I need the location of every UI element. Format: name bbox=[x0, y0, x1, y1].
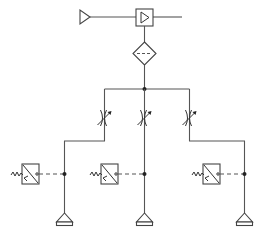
pneumatic-diagram bbox=[0, 0, 261, 236]
filter-icon bbox=[133, 42, 156, 65]
pressure-source-icon bbox=[80, 10, 90, 24]
branch-left bbox=[65, 89, 105, 213]
outlet-right-icon bbox=[237, 213, 253, 226]
sensor-right-icon bbox=[192, 164, 220, 184]
valve-box-icon bbox=[136, 9, 153, 26]
junction-dot-center bbox=[143, 172, 147, 176]
outlet-center-icon bbox=[137, 213, 153, 226]
junction-dot-right bbox=[243, 172, 247, 176]
junction-dot-left bbox=[63, 172, 67, 176]
branch-right bbox=[190, 89, 245, 213]
sensor-center-icon bbox=[90, 164, 118, 184]
outlet-left-icon bbox=[57, 213, 73, 226]
sensor-left-icon bbox=[11, 164, 39, 184]
